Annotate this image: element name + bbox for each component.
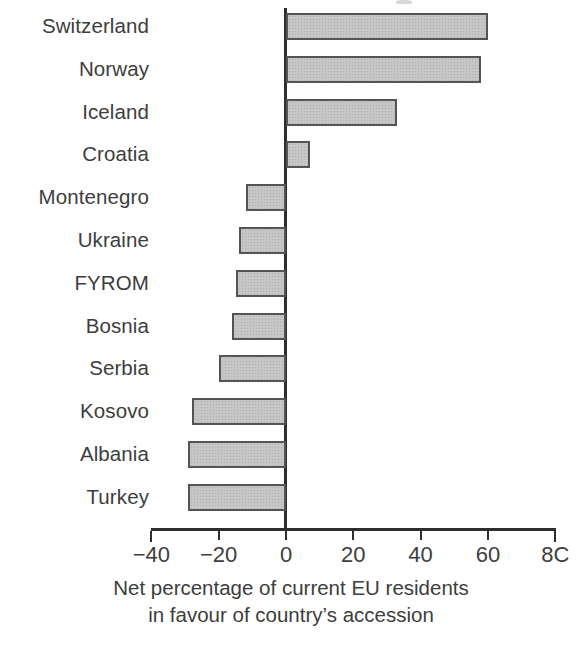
bar: [286, 56, 481, 83]
bar: [192, 398, 286, 425]
x-axis-tick-label: 20: [341, 543, 365, 567]
bar: [188, 484, 286, 511]
bar: [236, 270, 286, 297]
bar-chart: SwitzerlandNorwayIcelandCroatiaMontenegr…: [0, 0, 582, 650]
x-axis-tick: [218, 531, 220, 540]
x-axis-tick: [420, 531, 422, 540]
x-axis-tick-label: 0: [280, 543, 292, 567]
plot-area: [0, 0, 582, 530]
x-axis-tick: [352, 531, 354, 540]
bar: [188, 441, 286, 468]
x-axis-caption: Net percentage of current EU residents i…: [0, 574, 582, 628]
bar: [239, 227, 286, 254]
x-axis-tick-label: 60: [476, 543, 500, 567]
bar: [286, 141, 310, 168]
bar: [219, 355, 286, 382]
x-axis-tick: [285, 531, 287, 540]
x-axis-caption-line-2: in favour of country’s accession: [0, 601, 582, 628]
x-axis-caption-line-1: Net percentage of current EU residents: [113, 576, 469, 599]
x-axis-tick: [150, 531, 152, 542]
x-axis-tick: [554, 531, 556, 542]
x-axis-tick-label: −20: [200, 543, 237, 567]
x-axis-tick-label: 8C: [541, 543, 569, 567]
x-axis-tick-label: 40: [408, 543, 432, 567]
bar: [286, 13, 488, 40]
bar: [286, 99, 397, 126]
x-axis-tick-label: −40: [133, 543, 170, 567]
x-axis-tick: [487, 531, 489, 540]
bar: [246, 184, 286, 211]
bar: [232, 313, 286, 340]
